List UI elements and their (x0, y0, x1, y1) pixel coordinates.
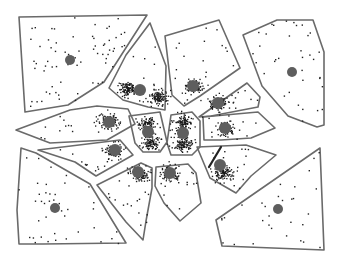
centroid-bottom-left (50, 203, 60, 213)
centroid-top-center-right (187, 80, 199, 92)
cell-top-left (19, 15, 147, 112)
cell-bottom-center-left (97, 163, 152, 240)
cell-bottom-right (216, 148, 324, 250)
centroid-top-center-left (134, 84, 146, 96)
cell-mid-right (203, 112, 275, 140)
centroid-center-left-core (142, 126, 154, 138)
centroid-center-core (177, 127, 189, 139)
cell-bottom-center (155, 164, 201, 221)
centroid-right-lower-center (214, 159, 226, 171)
voronoi-diagram (0, 0, 341, 262)
cell-boundaries (16, 15, 324, 250)
centroid-bottom-center (164, 167, 176, 179)
centroid-left-lower (109, 144, 121, 156)
centroid-top-left (65, 55, 75, 65)
centroid-bottom-right (273, 204, 283, 214)
centroid-top-right (287, 67, 297, 77)
centroid-left-upper (103, 116, 115, 128)
cell-bottom-left (17, 148, 126, 244)
centroid-mid-right (219, 122, 231, 134)
cell-top-right (243, 20, 324, 127)
cell-left-upper (16, 106, 135, 143)
centroid-bottom-center-left (132, 166, 144, 178)
cell-top-center-right (165, 20, 240, 106)
centroid-mid-right-upper (212, 97, 224, 109)
